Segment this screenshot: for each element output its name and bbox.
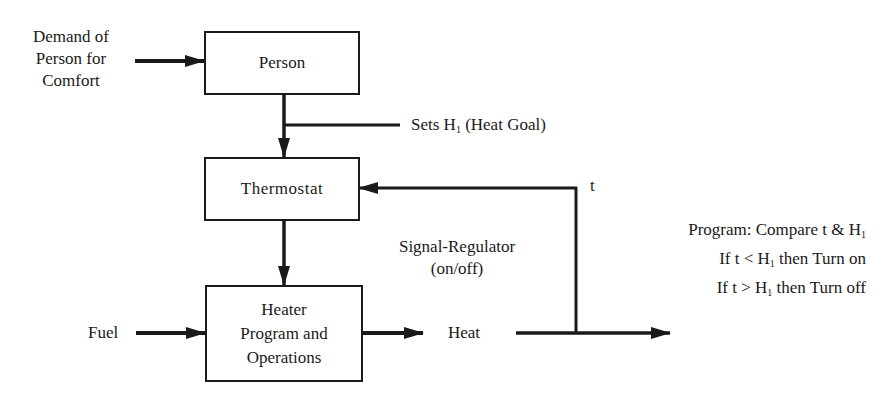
signal-regulator-label: Signal-Regulator (on/off) — [382, 236, 532, 280]
thermostat-block: Thermostat — [204, 157, 360, 221]
program-line-3: If t > H1 then Turn off — [620, 276, 866, 305]
demand-line-2: Person for — [16, 48, 126, 70]
connector-lines — [0, 0, 889, 404]
fuel-label: Fuel — [88, 322, 118, 344]
person-block: Person — [204, 31, 360, 95]
person-block-label: Person — [259, 51, 305, 75]
demand-line-3: Comfort — [16, 70, 126, 92]
heater-line-3: Operations — [247, 346, 322, 370]
heat-label: Heat — [448, 322, 480, 344]
heater-block: Heater Program and Operations — [205, 285, 363, 382]
feedback-variable-label: t — [590, 175, 595, 197]
program-line-1: Program: Compare t & H1 — [620, 218, 866, 247]
demand-label: Demand of Person for Comfort — [16, 26, 126, 92]
heater-line-1: Heater — [261, 298, 306, 322]
thermostat-block-label: Thermostat — [241, 177, 323, 201]
heater-line-2: Program and — [240, 322, 327, 346]
program-line-2: If t < H1 then Turn on — [620, 247, 866, 276]
program-text: Program: Compare t & H1 If t < H1 then T… — [620, 218, 866, 305]
demand-line-1: Demand of — [16, 26, 126, 48]
sets-goal-label: Sets H1 (Heat Goal) — [411, 114, 546, 141]
